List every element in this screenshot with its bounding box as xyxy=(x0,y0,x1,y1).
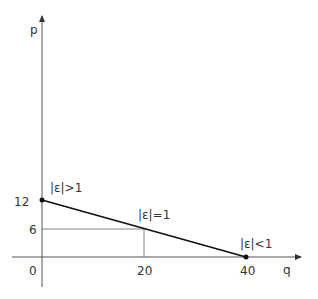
tick-y-6: 6 xyxy=(29,223,37,237)
tick-x-20: 20 xyxy=(137,264,152,278)
annotation-unit-elastic: |ε|=1 xyxy=(138,208,170,222)
point-p-intercept xyxy=(40,198,45,203)
origin-label: 0 xyxy=(29,264,37,278)
demand-elasticity-chart: p q 12 6 0 20 40 |ε|>1 |ε|=1 |ε|<1 xyxy=(0,0,318,299)
point-q-intercept xyxy=(244,255,249,260)
tick-x-40: 40 xyxy=(240,264,255,278)
x-axis-label: q xyxy=(283,263,291,277)
y-axis-label: p xyxy=(30,23,38,37)
annotation-elastic: |ε|>1 xyxy=(50,181,82,195)
tick-y-12: 12 xyxy=(14,195,29,209)
annotation-inelastic: |ε|<1 xyxy=(240,237,272,251)
